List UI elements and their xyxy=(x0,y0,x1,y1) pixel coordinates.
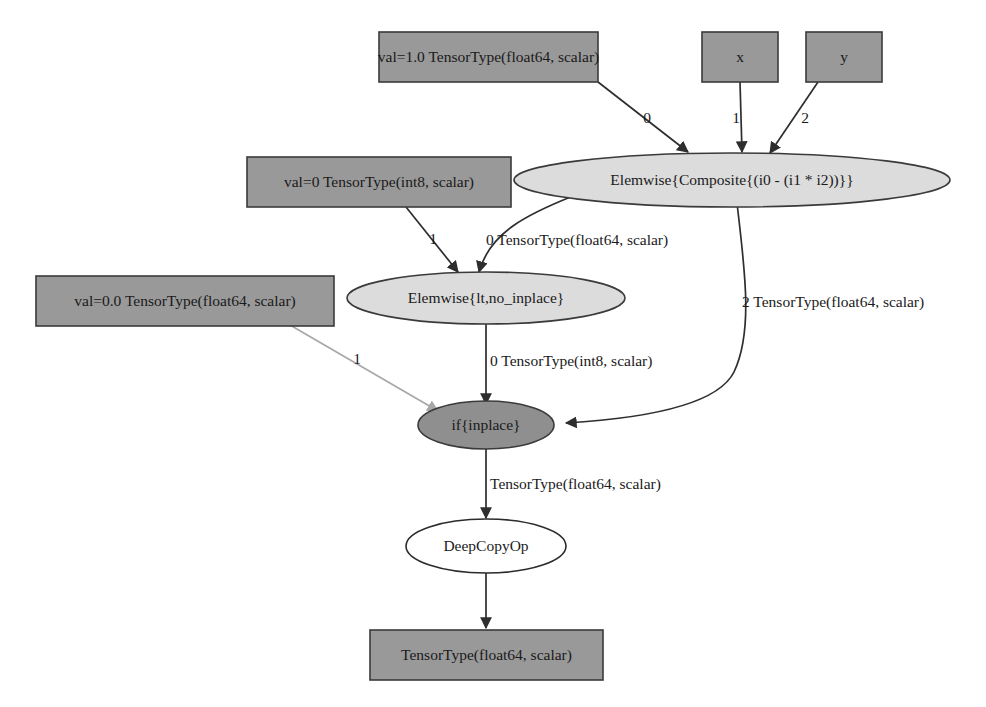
node-if-inplace[interactable]: if{inplace} xyxy=(418,401,554,449)
node-composite[interactable]: Elemwise{Composite{(i0 - (i1 * i2))}} xyxy=(514,153,950,207)
edge-label-y-to-composite: 2 xyxy=(801,109,809,126)
edge-int8-to-lt: 1 xyxy=(406,207,458,272)
edge-label-composite-to-if: 2 TensorType(float64, scalar) xyxy=(742,293,924,311)
node-const-int8-zero[interactable]: val=0 TensorType(int8, scalar) xyxy=(247,157,511,207)
edge-label-composite-to-lt: 0 TensorType(float64, scalar) xyxy=(486,231,668,249)
node-composite-label: Elemwise{Composite{(i0 - (i1 * i2))}} xyxy=(610,171,853,189)
edge-label-const-one-to-composite: 0 xyxy=(643,109,651,126)
node-const-int8-zero-label: val=0 TensorType(int8, scalar) xyxy=(284,173,474,191)
node-output-tensor[interactable]: TensorType(float64, scalar) xyxy=(370,630,603,680)
edge-path xyxy=(290,325,438,411)
node-input-x-label: x xyxy=(736,48,744,65)
node-input-y[interactable]: y xyxy=(806,32,882,82)
edge-label-int8-to-lt: 1 xyxy=(429,230,437,247)
edge-y-to-composite: 2 xyxy=(770,82,818,153)
edge-label-x-to-composite: 1 xyxy=(732,109,740,126)
edge-path xyxy=(770,82,818,153)
node-const-float-zero-label: val=0.0 TensorType(float64, scalar) xyxy=(74,292,296,310)
edge-path xyxy=(740,82,742,152)
node-input-y-label: y xyxy=(840,48,848,65)
node-const-one[interactable]: val=1.0 TensorType(float64, scalar) xyxy=(378,32,600,82)
edge-label-if-to-deepcopy: TensorType(float64, scalar) xyxy=(490,475,661,493)
node-deep-copy-op-label: DeepCopyOp xyxy=(443,537,528,554)
node-const-one-label: val=1.0 TensorType(float64, scalar) xyxy=(378,48,600,66)
computation-graph: 0 1 2 1 0 TensorType(float64, scalar) 2 … xyxy=(0,0,986,707)
node-output-tensor-label: TensorType(float64, scalar) xyxy=(401,646,572,664)
node-lt-no-inplace[interactable]: Elemwise{lt,no_inplace} xyxy=(347,272,625,324)
node-deep-copy-op[interactable]: DeepCopyOp xyxy=(406,519,566,573)
node-const-float-zero[interactable]: val=0.0 TensorType(float64, scalar) xyxy=(36,276,334,326)
edge-const-one-to-composite: 0 xyxy=(598,82,688,152)
edge-float-zero-to-if: 1 xyxy=(290,325,438,411)
edge-label-lt-to-if: 0 TensorType(int8, scalar) xyxy=(490,352,652,370)
node-if-inplace-label: if{inplace} xyxy=(451,416,520,433)
edge-if-to-deepcopy: TensorType(float64, scalar) xyxy=(486,448,661,518)
node-input-x[interactable]: x xyxy=(702,32,778,82)
edge-lt-to-if: 0 TensorType(int8, scalar) xyxy=(486,322,652,404)
node-lt-no-inplace-label: Elemwise{lt,no_inplace} xyxy=(408,289,565,306)
edge-label-float-zero-to-if: 1 xyxy=(353,350,361,367)
edge-x-to-composite: 1 xyxy=(732,82,742,152)
